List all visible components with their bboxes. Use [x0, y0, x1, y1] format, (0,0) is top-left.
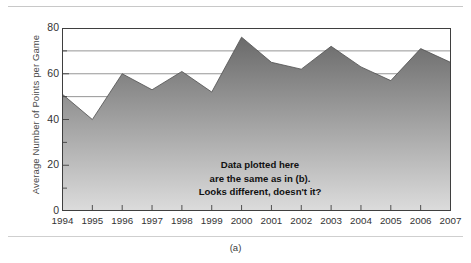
- y-tick-label: 40: [33, 113, 59, 125]
- y-tick-label: 60: [33, 67, 59, 79]
- figure-panel-a: Average Number of Points per Game 020406…: [0, 0, 471, 263]
- panel-caption: (a): [0, 242, 471, 253]
- y-tick-label: 20: [33, 158, 59, 170]
- x-tick-label: 2007: [431, 215, 471, 226]
- plot-area: [62, 28, 451, 211]
- area-chart-svg: [62, 28, 451, 211]
- y-tick-label: 80: [33, 21, 59, 33]
- top-divider-rule: [8, 6, 463, 7]
- bottom-divider-rule: [8, 236, 463, 237]
